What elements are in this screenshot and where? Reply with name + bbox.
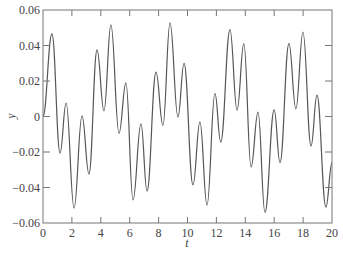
line-chart: 02468101214161820 −0.06−0.04−0.0200.020.…	[0, 0, 343, 255]
y-axis-label: y	[4, 113, 18, 120]
y-tick-label: 0.02	[19, 74, 40, 88]
x-tick-label: 14	[239, 226, 251, 240]
x-tick-label: 20	[326, 226, 338, 240]
x-tick-label: 4	[98, 226, 104, 240]
y-tick-label: 0	[34, 110, 40, 124]
plot-frame	[43, 10, 332, 223]
plot-area	[43, 10, 332, 223]
x-tick-label: 16	[268, 226, 280, 240]
x-tick-label: 18	[297, 226, 309, 240]
y-tick-label: −0.04	[12, 181, 40, 195]
x-tick-label: 8	[156, 226, 162, 240]
x-tick-label: 12	[210, 226, 222, 240]
y-tick-label: −0.02	[12, 145, 40, 159]
series-line	[43, 23, 332, 212]
x-tick-label: 6	[127, 226, 133, 240]
x-tick-label: 0	[40, 226, 46, 240]
y-tick-label: −0.06	[12, 216, 40, 230]
y-tick-label: 0.04	[19, 39, 40, 53]
x-tick-label: 2	[69, 226, 75, 240]
y-tick-label: 0.06	[19, 3, 40, 17]
